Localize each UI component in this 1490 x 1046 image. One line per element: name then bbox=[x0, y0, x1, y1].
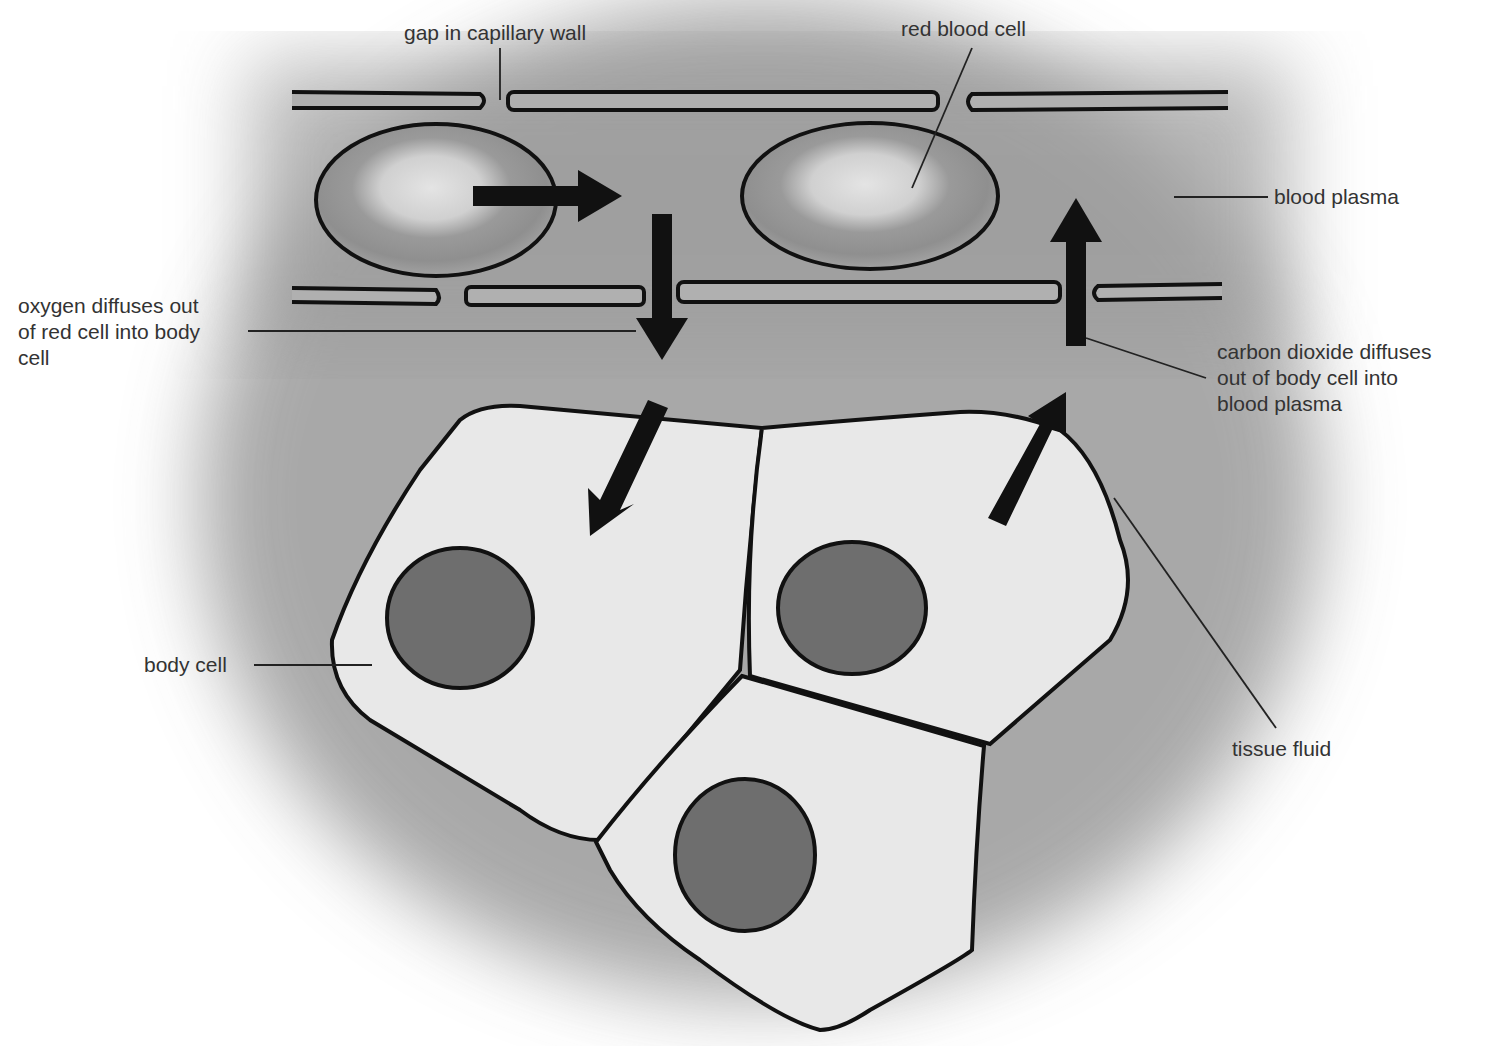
label-co2-line3: blood plasma bbox=[1217, 392, 1342, 415]
label-tissue-fluid: tissue fluid bbox=[1232, 737, 1331, 760]
label-body-cell: body cell bbox=[144, 653, 227, 676]
label-oxygen-line3: cell bbox=[18, 346, 50, 369]
label-co2-line1: carbon dioxide diffuses bbox=[1217, 340, 1431, 363]
red-blood-cell-2 bbox=[742, 123, 998, 269]
label-oxygen-line1: oxygen diffuses out bbox=[18, 294, 199, 317]
label-blood-plasma: blood plasma bbox=[1274, 185, 1399, 208]
label-co2-line2: out of body cell into bbox=[1217, 366, 1398, 389]
label-red-blood-cell: red blood cell bbox=[901, 17, 1026, 40]
capillary-wall-top bbox=[292, 92, 1228, 110]
diagram-canvas: gap in capillary wall red blood cell blo… bbox=[0, 0, 1490, 1046]
label-gap-in-capillary-wall: gap in capillary wall bbox=[404, 21, 586, 44]
label-oxygen-line2: of red cell into body bbox=[18, 320, 201, 343]
